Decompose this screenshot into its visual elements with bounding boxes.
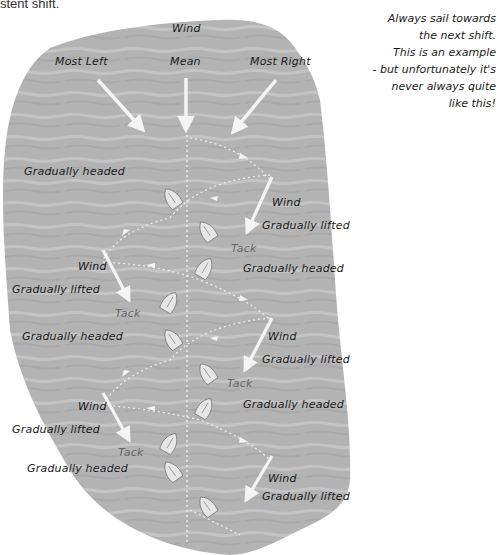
label-tack-3: Tack bbox=[227, 377, 253, 390]
note-line: Always sail towards bbox=[296, 10, 496, 27]
label-tack-1: Tack bbox=[231, 242, 257, 255]
label-headed-3: Gradually headed bbox=[22, 330, 123, 343]
label-lifted-5: Gradually lifted bbox=[262, 490, 350, 503]
note-line: never always quite bbox=[296, 78, 496, 95]
label-lifted-2: Gradually lifted bbox=[12, 283, 100, 296]
note-line: like this! bbox=[296, 95, 496, 112]
label-headed-2: Gradually headed bbox=[243, 262, 344, 275]
label-wind-1: Wind bbox=[272, 196, 301, 209]
note-line: - but unfortunately it's bbox=[296, 61, 496, 78]
label-tack-2: Tack bbox=[115, 307, 141, 320]
wind-title: Wind bbox=[172, 22, 201, 35]
label-headed-1: Gradually headed bbox=[24, 165, 125, 178]
mean-label: Mean bbox=[170, 55, 201, 68]
label-lifted-1: Gradually lifted bbox=[262, 219, 350, 232]
label-wind-4: Wind bbox=[78, 400, 107, 413]
note-line: This is an example bbox=[296, 44, 496, 61]
advice-note: Always sail towards the next shift. This… bbox=[296, 10, 496, 112]
label-wind-5: Wind bbox=[268, 472, 297, 485]
label-headed-5: Gradually headed bbox=[27, 462, 128, 475]
label-lifted-3: Gradually lifted bbox=[262, 353, 350, 366]
note-line: the next shift. bbox=[296, 27, 496, 44]
label-tack-4: Tack bbox=[118, 446, 144, 459]
label-lifted-4: Gradually lifted bbox=[12, 423, 100, 436]
most-left-label: Most Left bbox=[55, 55, 108, 68]
label-headed-4: Gradually headed bbox=[243, 398, 344, 411]
label-wind-3: Wind bbox=[268, 330, 297, 343]
label-wind-2: Wind bbox=[78, 260, 107, 273]
